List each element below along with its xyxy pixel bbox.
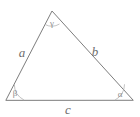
angle-label-beta: β	[13, 88, 18, 98]
triangle-figure: a b c γ β α	[0, 0, 140, 117]
side-label-b: b	[92, 44, 99, 59]
angle-label-alpha: α	[118, 89, 123, 99]
triangle-diagram: a b c γ β α	[0, 0, 140, 117]
side-label-a: a	[19, 45, 26, 60]
angle-label-gamma: γ	[49, 18, 54, 28]
side-label-c: c	[65, 102, 71, 117]
